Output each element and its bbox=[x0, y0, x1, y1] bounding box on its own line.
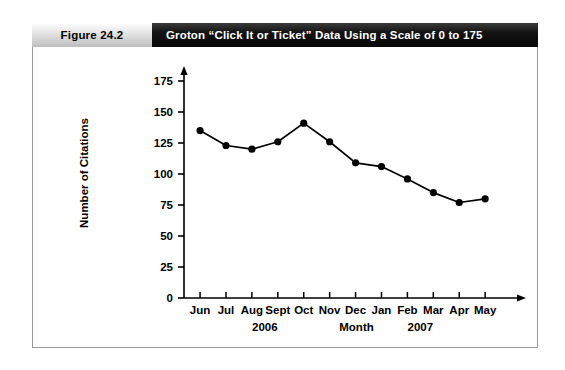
y-tick-label: 150 bbox=[154, 106, 173, 118]
figure-root: Figure 24.2 Groton “Click It or Ticket” … bbox=[0, 0, 565, 370]
y-tick-label: 125 bbox=[154, 137, 174, 149]
data-point bbox=[404, 175, 411, 182]
x-axis-tick-labels: JunJulAugSeptOctNovDecJanFebMarAprMay bbox=[190, 304, 497, 316]
y-axis bbox=[180, 66, 187, 298]
data-point bbox=[196, 127, 203, 134]
data-point bbox=[248, 146, 255, 153]
y-axis-ticks bbox=[178, 81, 184, 298]
x-tick-label: Dec bbox=[345, 304, 367, 316]
x-tick-label: May bbox=[474, 304, 497, 316]
data-point bbox=[352, 159, 359, 166]
x-axis-year-label: 2007 bbox=[408, 321, 434, 333]
x-axis-year-label: 2006 bbox=[252, 321, 278, 333]
x-tick-label: Jan bbox=[372, 304, 392, 316]
data-point bbox=[326, 138, 333, 145]
x-tick-label: Apr bbox=[449, 304, 469, 316]
chart-plot-area: Number of Citations 0255075100125150175 … bbox=[32, 47, 538, 348]
data-series-markers bbox=[196, 120, 488, 207]
x-tick-label: Feb bbox=[397, 304, 417, 316]
x-axis-ticks bbox=[200, 292, 485, 298]
x-tick-label: Mar bbox=[423, 304, 444, 316]
data-point bbox=[456, 199, 463, 206]
x-tick-label: Aug bbox=[241, 304, 263, 316]
figure-title: Groton “Click It or Ticket” Data Using a… bbox=[152, 23, 538, 47]
x-tick-label: Jul bbox=[218, 304, 235, 316]
y-tick-label: 75 bbox=[160, 199, 173, 211]
x-tick-label: Oct bbox=[294, 304, 313, 316]
data-series-line bbox=[200, 123, 485, 202]
x-tick-label: Jun bbox=[190, 304, 210, 316]
figure-number-label: Figure 24.2 bbox=[32, 23, 152, 47]
line-chart: 0255075100125150175 JunJulAugSeptOctNovD… bbox=[32, 47, 538, 348]
data-point bbox=[430, 189, 437, 196]
y-tick-label: 100 bbox=[154, 168, 173, 180]
data-point bbox=[274, 138, 281, 145]
data-point bbox=[300, 120, 307, 127]
data-point bbox=[482, 195, 489, 202]
y-tick-label: 25 bbox=[160, 261, 173, 273]
x-tick-label: Nov bbox=[319, 304, 341, 316]
data-point bbox=[378, 163, 385, 170]
x-tick-label: Sept bbox=[265, 304, 290, 316]
y-tick-label: 50 bbox=[160, 230, 173, 242]
y-tick-label: 0 bbox=[167, 292, 173, 304]
y-axis-tick-labels: 0255075100125150175 bbox=[154, 75, 174, 304]
x-axis-caption: Month bbox=[339, 321, 373, 333]
figure-header: Figure 24.2 Groton “Click It or Ticket” … bbox=[32, 23, 538, 47]
y-tick-label: 175 bbox=[154, 75, 174, 87]
data-point bbox=[222, 142, 229, 149]
x-axis-caption-label: Month bbox=[339, 321, 373, 333]
